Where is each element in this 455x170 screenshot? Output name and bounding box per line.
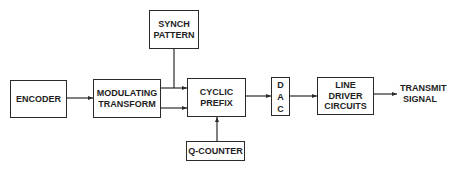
synch-label-line2: PATTERN — [153, 30, 194, 41]
modulating-label-line2: TRANSFORM — [97, 99, 157, 110]
transmit-label-line2: SIGNAL — [400, 94, 447, 105]
modulating-label-line1: MODULATING — [97, 88, 157, 99]
line-driver-label-line2: CIRCUITS — [318, 101, 373, 112]
line-driver-label-line1: LINE DRIVER — [318, 80, 373, 101]
synch-label-line1: SYNCH — [153, 19, 194, 30]
q-counter-label: Q-COUNTER — [188, 146, 243, 157]
cyclic-label-line2: PREFIX — [200, 98, 234, 109]
dac-label-d: D — [277, 79, 284, 91]
cyclic-label-line1: CYCLIC — [200, 87, 234, 98]
q-counter-block: Q-COUNTER — [186, 141, 245, 161]
cyclic-prefix-block: CYCLIC PREFIX — [187, 78, 246, 117]
transmit-label-line1: TRANSMIT — [400, 83, 447, 94]
dac-block: D A C — [271, 77, 290, 116]
synch-pattern-block: SYNCH PATTERN — [149, 10, 199, 49]
dac-label-a: A — [277, 91, 284, 103]
modulating-transform-block: MODULATING TRANSFORM — [93, 79, 161, 118]
block-diagram: ENCODER MODULATING TRANSFORM SYNCH PATTE… — [0, 0, 455, 170]
encoder-block: ENCODER — [10, 80, 67, 118]
encoder-label: ENCODER — [16, 94, 61, 105]
transmit-signal-label: TRANSMIT SIGNAL — [400, 83, 447, 105]
line-driver-block: LINE DRIVER CIRCUITS — [317, 77, 374, 115]
dac-label-c: C — [277, 103, 284, 115]
